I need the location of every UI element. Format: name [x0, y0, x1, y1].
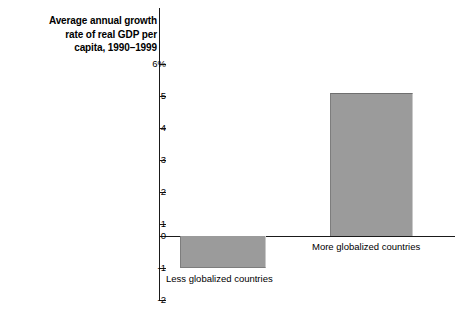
bar-more-globalized-countries	[330, 93, 413, 236]
y-tick-label-0-row: 0	[110, 231, 166, 241]
chart-title-line-2: rate of real GDP per	[10, 28, 157, 42]
y-tick-label-neg2: -2	[130, 295, 166, 305]
y-tick-label-2: 2	[130, 187, 166, 197]
y-tick-label-6-row: 6%	[110, 59, 166, 69]
y-tick-label-4-row: 4	[110, 123, 166, 133]
y-tick-label-4: 4	[130, 123, 166, 133]
y-tick-label-6: 6%	[130, 59, 166, 69]
y-tick-label-1: 1	[130, 219, 166, 229]
chart-title-line-1: Average annual growth	[10, 14, 157, 28]
bar-less-globalized-countries	[180, 236, 266, 268]
y-tick-label-neg1-row: -1	[110, 263, 166, 273]
y-tick-label-neg2-row: -2	[110, 295, 166, 305]
y-tick-label-5: 5	[130, 91, 166, 101]
y-tick-label-2-row: 2	[110, 187, 166, 197]
y-tick-label-neg1: -1	[130, 263, 166, 273]
chart-title: Average annual growth rate of real GDP p…	[10, 14, 157, 55]
y-tick-label-0: 0	[130, 231, 166, 241]
chart-figure: Average annual growth rate of real GDP p…	[0, 0, 466, 317]
y-tick-label-5-row: 5	[110, 91, 166, 101]
chart-title-line-3: capita, 1990–1999	[10, 41, 157, 55]
y-tick-label-3: 3	[130, 155, 166, 165]
category-label-less-globalized: Less globalized countries	[166, 273, 273, 284]
category-label-more-globalized: More globalized countries	[312, 241, 420, 252]
y-tick-label-1-row: 1	[110, 219, 166, 229]
y-tick-label-3-row: 3	[110, 155, 166, 165]
